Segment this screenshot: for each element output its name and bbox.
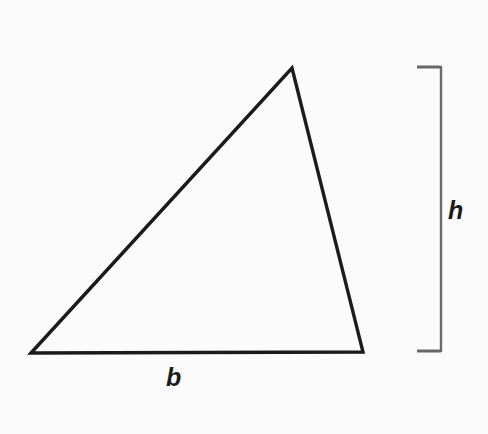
figure-canvas: [0, 0, 488, 434]
base-label: b: [166, 365, 181, 390]
triangle-figure: b h: [0, 0, 488, 434]
height-label: h: [448, 198, 463, 223]
figure-background: [0, 0, 488, 434]
